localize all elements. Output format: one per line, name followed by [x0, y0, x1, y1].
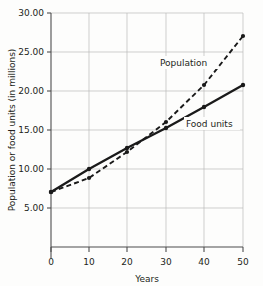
x-axis-tick-labels: 0 10 20 30 40 50 — [48, 257, 249, 267]
data-point-population-30 — [164, 120, 168, 124]
data-point-food-units-20 — [125, 146, 129, 150]
y-tick-label-10: 10.00 — [18, 164, 44, 174]
x-axis-title: Years — [134, 274, 159, 284]
x-tick-label-10: 10 — [83, 257, 95, 267]
data-point-food-units-40 — [202, 105, 206, 109]
y-axis-title: Population or food units (in millions) — [7, 49, 17, 212]
y-tick-label-30: 30.00 — [18, 8, 44, 18]
y-tick-label-15: 15.00 — [18, 125, 44, 135]
data-point-population-20 — [125, 150, 129, 154]
x-tick-label-40: 40 — [198, 257, 210, 267]
x-axis-ticks — [51, 247, 243, 252]
x-tick-label-30: 30 — [160, 257, 172, 267]
y-tick-label-25: 25.00 — [18, 47, 44, 57]
data-point-food-units-50 — [241, 83, 245, 87]
y-axis-tick-labels: 30.00 25.00 20.00 15.00 10.00 5.00 — [18, 8, 44, 213]
data-point-food-units-30 — [164, 126, 168, 130]
x-tick-label-50: 50 — [237, 257, 249, 267]
data-point-food-units-0 — [49, 190, 53, 194]
y-axis-ticks — [47, 13, 51, 208]
series-annotation-food-units: Food units — [186, 119, 233, 129]
series-annotation-population: Population — [160, 58, 207, 68]
chart-container: 30.00 25.00 20.00 15.00 10.00 5.00 0 10 … — [0, 0, 263, 286]
data-point-population-10 — [87, 176, 91, 180]
x-tick-label-0: 0 — [48, 257, 54, 267]
x-tick-label-20: 20 — [121, 257, 133, 267]
data-point-food-units-10 — [87, 167, 91, 171]
data-point-population-40 — [202, 83, 206, 87]
y-tick-label-20: 20.00 — [18, 86, 44, 96]
y-tick-label-5: 5.00 — [24, 203, 44, 213]
data-point-population-50 — [241, 34, 245, 38]
line-chart: 30.00 25.00 20.00 15.00 10.00 5.00 0 10 … — [0, 0, 263, 286]
